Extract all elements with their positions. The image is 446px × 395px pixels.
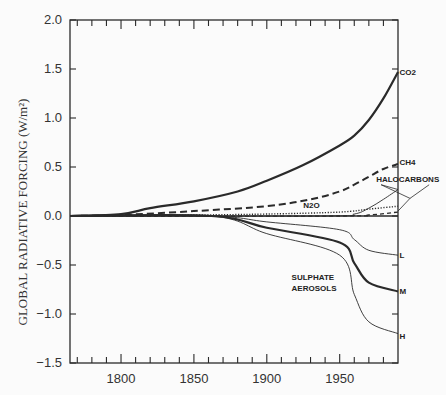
x-tick-label: 1800 — [107, 371, 136, 386]
y-tick-label: 0.0 — [44, 208, 62, 223]
x-tick-label: 1850 — [179, 371, 208, 386]
y-tick-label: −0.5 — [36, 257, 62, 272]
annotation-label: H — [399, 332, 405, 341]
y-axis-label: GLOBAL RADIATIVE FORCING (W/m²) — [15, 99, 31, 326]
series-sulphate-aerosols-m — [70, 215, 398, 291]
y-tick-label: −1.0 — [36, 306, 62, 321]
annotation-label: L — [399, 251, 404, 260]
x-tick-label: 1950 — [325, 371, 354, 386]
annotation-label: CO2 — [399, 68, 416, 77]
tick-labels: 18001850190019502.01.51.00.50.0−0.5−1.0−… — [36, 12, 354, 386]
y-tick-label: −1.5 — [36, 355, 62, 370]
annotation-label: HALOCARBONS — [376, 175, 440, 184]
data-series — [70, 72, 398, 334]
x-tick-label: 1900 — [252, 371, 281, 386]
series-co2 — [70, 72, 398, 216]
annotation-label: CH4 — [399, 158, 416, 167]
y-tick-label: 1.5 — [44, 61, 62, 76]
y-tick-label: 1.0 — [44, 110, 62, 125]
annotation-label: SULPHATE — [292, 273, 335, 282]
series-ch4 — [70, 164, 398, 216]
annotation-label: N2O — [303, 201, 319, 210]
annotation-label: M — [399, 287, 406, 296]
y-tick-label: 2.0 — [44, 12, 62, 27]
annotations: CO2CH4HALOCARBONSN2OLMHSULPHATEAEROSOLS — [292, 68, 440, 341]
radiative-forcing-chart: 18001850190019502.01.51.00.50.0−0.5−1.0−… — [0, 0, 446, 395]
y-tick-label: 0.5 — [44, 159, 62, 174]
annotation-label: AEROSOLS — [292, 284, 338, 293]
